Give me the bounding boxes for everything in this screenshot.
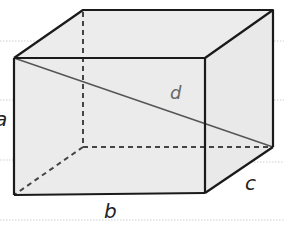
cuboid-diagram: a b c d bbox=[0, 0, 284, 226]
label-b: b bbox=[104, 199, 117, 223]
label-d: d bbox=[170, 82, 182, 103]
label-a: a bbox=[0, 107, 7, 131]
label-c: c bbox=[245, 171, 256, 195]
